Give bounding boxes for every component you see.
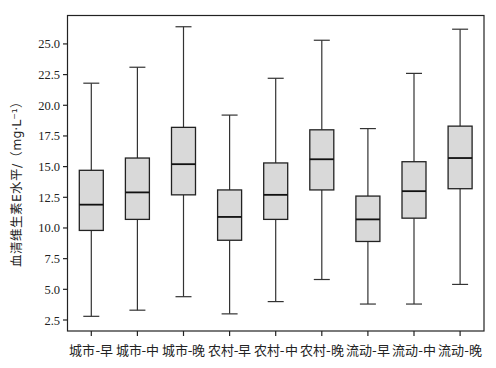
x-category-label: 农村-中: [254, 343, 298, 358]
box-3: [172, 27, 196, 297]
x-category-label: 流动-中: [392, 343, 436, 358]
box-4: [218, 115, 242, 314]
x-category-label: 流动-晚: [438, 343, 482, 358]
box-9: [448, 29, 472, 284]
box-1: [79, 83, 103, 316]
y-tick-label: 15.0: [38, 160, 60, 174]
x-category-label: 农村-早: [208, 343, 252, 358]
iqr-box: [172, 127, 196, 194]
y-tick-label: 25.0: [38, 37, 60, 51]
iqr-box: [79, 170, 103, 230]
x-category-label: 城市-晚: [162, 343, 206, 358]
iqr-box: [218, 190, 242, 240]
x-category-label: 流动-早: [346, 343, 390, 358]
x-axis: 城市-早城市-中城市-晚农村-早农村-中农村-晚流动-早流动-中流动-晚: [69, 331, 482, 358]
y-axis-label: 血清维生素E水平/（mg·L⁻¹）: [9, 95, 24, 267]
y-tick-label: 7.5: [44, 252, 60, 266]
box-7: [356, 129, 380, 304]
x-category-label: 城市-中: [116, 343, 160, 358]
iqr-box: [402, 162, 426, 218]
boxes: [79, 27, 472, 317]
y-tick-label: 5.0: [44, 283, 60, 297]
y-tick-label: 17.5: [38, 129, 60, 143]
x-category-label: 城市-早: [69, 343, 113, 358]
y-tick-label: 22.5: [38, 68, 60, 82]
y-axis: 2.55.07.510.012.515.017.520.022.525.0: [38, 37, 67, 327]
iqr-box: [264, 163, 288, 219]
box-plot-chart: 2.55.07.510.012.515.017.520.022.525.0 城市…: [0, 0, 496, 368]
box-5: [264, 78, 288, 301]
box-8: [402, 73, 426, 304]
iqr-box: [125, 158, 149, 219]
y-tick-label: 2.5: [44, 314, 60, 328]
box-6: [310, 40, 334, 279]
y-tick-label: 12.5: [38, 191, 60, 205]
y-tick-label: 10.0: [38, 221, 60, 235]
x-category-label: 农村-晚: [300, 343, 344, 358]
y-tick-label: 20.0: [38, 99, 60, 113]
box-2: [125, 67, 149, 310]
